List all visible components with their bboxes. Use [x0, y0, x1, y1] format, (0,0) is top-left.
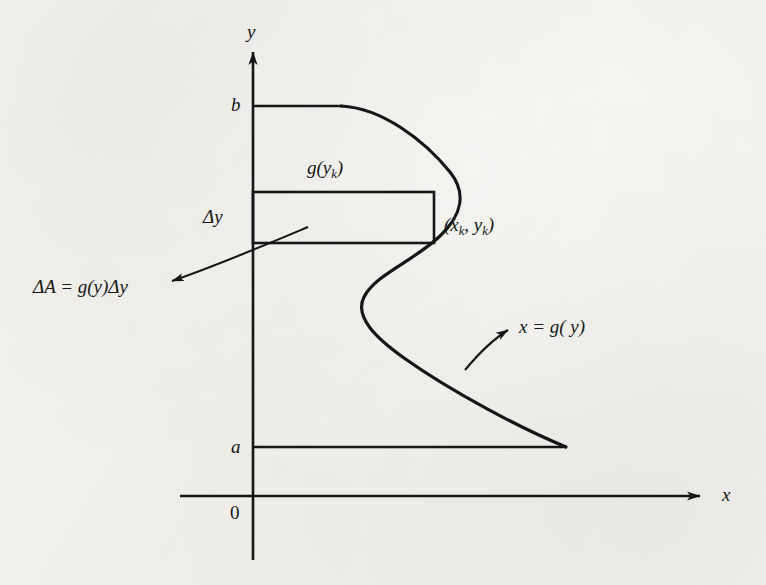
- curve-equation-label: x = g( y): [519, 317, 585, 336]
- upper-bound-label: b: [231, 95, 241, 114]
- figure-canvas: y x b a 0 Δy g(yk) (xk, yk) ΔA = g(y)Δy …: [0, 0, 766, 585]
- representative-rectangle: [253, 192, 434, 243]
- lower-bound-label: a: [231, 437, 241, 456]
- origin-label: 0: [230, 503, 240, 522]
- area-formula-leader-arrow: [172, 227, 308, 281]
- curve-x-equals-g-of-y: [341, 106, 566, 447]
- sample-point-close: ): [488, 214, 494, 235]
- strip-length-label: g(yk): [307, 158, 343, 180]
- sample-point-label: (xk, yk): [444, 215, 494, 237]
- sample-point-mid: , y: [464, 214, 482, 235]
- x-axis-label: x: [722, 485, 730, 504]
- delta-y-label: Δy: [203, 207, 223, 226]
- strip-length-text: g(y: [307, 157, 331, 178]
- curve-equation-leader-arrow: [465, 330, 508, 370]
- strip-length-close: ): [337, 157, 343, 178]
- y-axis-label: y: [247, 22, 255, 41]
- sample-point-open: (x: [444, 214, 459, 235]
- area-formula-label: ΔA = g(y)Δy: [33, 277, 128, 296]
